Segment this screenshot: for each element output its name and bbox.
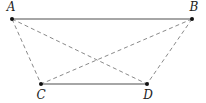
geometry-diagram: ABCD — [0, 0, 206, 103]
point-d — [145, 82, 149, 86]
label-c: C — [36, 88, 45, 102]
label-b: B — [189, 0, 199, 14]
point-c — [39, 82, 43, 86]
diagram-canvas: ABCD — [0, 0, 206, 103]
labels-group: ABCD — [6, 0, 199, 102]
point-b — [190, 17, 194, 21]
segment-ac — [12, 19, 41, 84]
point-a — [10, 17, 14, 21]
label-a: A — [6, 0, 16, 14]
segment-ad — [12, 19, 147, 84]
segments-group — [12, 19, 192, 84]
segment-bc — [41, 19, 192, 84]
points-group — [10, 17, 194, 86]
label-d: D — [142, 88, 153, 102]
